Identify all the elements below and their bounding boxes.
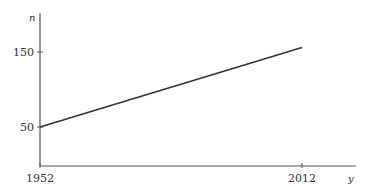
y-axis-label: n xyxy=(29,12,35,23)
line-chart: n y 5015019522012 xyxy=(0,0,375,190)
series-line-n xyxy=(40,48,302,128)
y-tick-label-150: 150 xyxy=(13,46,34,59)
x-tick-label-1952: 1952 xyxy=(26,172,54,185)
y-tick-label-50: 50 xyxy=(20,121,34,134)
x-tick-label-2012: 2012 xyxy=(288,172,316,185)
x-axis-label: y xyxy=(347,173,354,184)
